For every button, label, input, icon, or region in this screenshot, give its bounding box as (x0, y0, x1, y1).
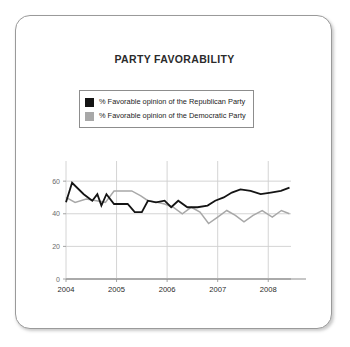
ytick-label: 20 (52, 243, 60, 250)
ytick-label: 60 (52, 178, 60, 185)
xtick-label: 2006 (159, 285, 176, 294)
xtick-label: 2004 (58, 285, 75, 294)
xtick-label: 2007 (209, 285, 226, 294)
ytick-label: 0 (56, 276, 60, 283)
xtick-label: 2005 (108, 285, 125, 294)
line-chart-svg: 020406020042005200620072008 (16, 16, 333, 330)
xtick-label: 2008 (260, 285, 277, 294)
series-layer (66, 183, 289, 224)
ytick-label: 40 (52, 210, 60, 217)
screenshot-canvas: PARTY FAVORABILITY % Favorable opinion o… (0, 0, 350, 347)
chart-card: PARTY FAVORABILITY % Favorable opinion o… (15, 15, 332, 329)
grid-layer (66, 161, 291, 279)
series-line-democratic (66, 191, 289, 224)
plot-area: 020406020042005200620072008 (16, 16, 333, 330)
series-line-republican (66, 183, 289, 212)
